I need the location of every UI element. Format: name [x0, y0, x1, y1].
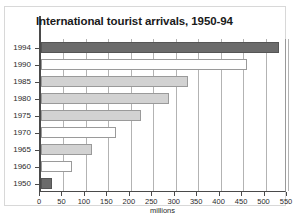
- x-axis-label-50: 50: [57, 197, 65, 206]
- y-axis-label-1985: 1985: [13, 77, 31, 86]
- bar-1970: [41, 127, 116, 138]
- chart-title: International tourist arrivals, 1950-94: [36, 15, 233, 27]
- chart-frame: International tourist arrivals, 1950-94 …: [4, 6, 286, 206]
- x-axis-tick: [286, 192, 287, 196]
- x-axis-label-0: 0: [37, 197, 41, 206]
- gridline: [266, 39, 267, 191]
- y-axis-label-1994: 1994: [13, 43, 31, 52]
- y-axis-label-1950: 1950: [13, 179, 31, 188]
- bar-1950: [41, 178, 52, 189]
- x-axis-label-150: 150: [100, 197, 113, 206]
- x-axis-tick: [219, 192, 220, 196]
- x-axis-label-450: 450: [235, 197, 248, 206]
- x-axis-label-550: 550: [280, 197, 292, 206]
- x-axis-tick: [39, 192, 40, 196]
- bar-1960: [41, 161, 72, 172]
- bar-1994: [41, 42, 279, 53]
- x-axis-tick: [106, 192, 107, 196]
- x-axis-label-500: 500: [257, 197, 270, 206]
- bar-1990: [41, 59, 247, 70]
- x-axis-tick: [174, 192, 175, 196]
- y-axis-label-1975: 1975: [13, 111, 31, 120]
- y-axis-label-1960: 1960: [13, 162, 31, 171]
- x-axis-tick: [241, 192, 242, 196]
- bar-1975: [41, 110, 141, 121]
- x-axis-label-100: 100: [78, 197, 91, 206]
- y-axis-label-1970: 1970: [13, 128, 31, 137]
- y-axis-label-1980: 1980: [13, 94, 31, 103]
- x-axis-label-200: 200: [123, 197, 136, 206]
- x-axis-tick: [84, 192, 85, 196]
- x-axis-tick: [61, 192, 62, 196]
- y-axis-label-1965: 1965: [13, 145, 31, 154]
- bar-1985: [41, 76, 188, 87]
- x-axis-label-400: 400: [212, 197, 225, 206]
- x-axis-title: millions: [150, 206, 175, 212]
- y-axis-label-1990: 1990: [13, 60, 31, 69]
- x-axis-tick: [129, 192, 130, 196]
- x-axis-tick: [151, 192, 152, 196]
- x-axis-label-250: 250: [145, 197, 158, 206]
- bar-1965: [41, 144, 92, 155]
- x-axis-tick: [196, 192, 197, 196]
- x-axis-tick: [264, 192, 265, 196]
- bar-1980: [41, 93, 169, 104]
- plot-area: [39, 39, 286, 192]
- gridline: [288, 39, 289, 191]
- x-axis-label-300: 300: [167, 197, 180, 206]
- x-axis-label-350: 350: [190, 197, 203, 206]
